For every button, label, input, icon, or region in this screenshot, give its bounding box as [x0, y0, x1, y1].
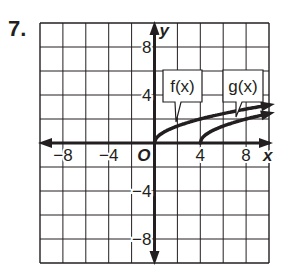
origin-label: O: [137, 146, 150, 165]
curve-f: [155, 105, 270, 143]
y-tick-label: 4: [142, 86, 151, 105]
y-tick-label: −8: [132, 230, 151, 249]
curve-arrow-icon: [260, 101, 275, 111]
coordinate-plane: −8−44884−4−8Oxy f(x)g(x): [0, 0, 289, 272]
x-tick-label: −8: [53, 146, 72, 165]
x-tick-label: −4: [99, 146, 118, 165]
x-tick-label: 4: [196, 146, 205, 165]
x-axis-label: x: [262, 146, 274, 165]
callout-f: f(x): [163, 70, 202, 122]
function-label: g(x): [228, 77, 257, 96]
y-tick-label: 8: [142, 38, 151, 57]
x-tick-label: 8: [241, 146, 250, 165]
y-axis-label: y: [159, 21, 171, 40]
y-tick-label: −4: [132, 182, 151, 201]
function-curves: [155, 101, 275, 143]
function-label: f(x): [170, 77, 195, 96]
